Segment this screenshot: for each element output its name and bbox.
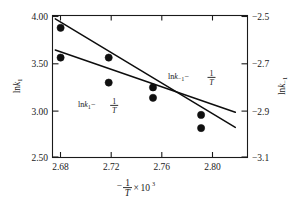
y-left-ticks	[53, 17, 59, 158]
y-left-axis-title: lnk1	[12, 79, 23, 94]
ann-lnk1-frac-num: 1	[112, 97, 116, 106]
y-right-tick-label-2: −2.9	[252, 107, 269, 117]
x-ticks	[61, 16, 213, 158]
chart-svg: 4.00 3.50 3.00 2.50 −2.5 −2.7 −2.9 −3.1 …	[0, 0, 297, 201]
fit-line-lnk1	[55, 19, 235, 128]
data-point	[149, 84, 156, 91]
y-left-tick-label-0: 4.00	[31, 12, 48, 22]
svg-text:lnk1: lnk1	[12, 79, 23, 94]
annotation-lnkm1: lnk−1− 1 T	[168, 69, 216, 88]
y-right-tick-label-3: −3.1	[252, 153, 269, 163]
ann-lnkm1-frac-num: 1	[210, 69, 214, 78]
x-tick-label-0: 2.68	[52, 162, 69, 172]
y-right-tick-label-1: −2.7	[252, 59, 269, 69]
svg-text:lnk−1: lnk−1	[277, 77, 288, 95]
x-tick-label-2: 2.76	[153, 162, 170, 172]
svg-text:lnk−1−: lnk−1−	[168, 72, 189, 82]
x-title-den: T	[125, 188, 131, 198]
y-left-tick-label-1: 3.50	[31, 59, 48, 69]
y-right-axis-title: lnk−1	[277, 77, 288, 95]
data-point	[198, 125, 205, 132]
x-title-num: 1	[125, 178, 130, 188]
y-right-title-sub: −1	[281, 77, 288, 84]
x-title-times: ×	[134, 183, 139, 193]
x-title-exp: 3	[152, 180, 155, 187]
ann-lnkm1-dash: −	[184, 72, 189, 81]
annotation-lnk1: lnk1− 1 T	[78, 97, 118, 116]
x-tick-label-3: 2.80	[204, 162, 221, 172]
y-left-title-sub: 1	[16, 79, 23, 82]
data-point	[57, 24, 64, 31]
x-title-minus: −	[117, 181, 122, 191]
ann-lnkm1-frac-den: T	[209, 78, 214, 87]
x-tick-label-1: 2.72	[103, 162, 120, 172]
data-point	[57, 54, 64, 61]
svg-text:lnk1−: lnk1−	[78, 100, 96, 110]
y-right-ticks	[242, 17, 248, 158]
data-point	[149, 94, 156, 101]
y-left-tick-label-3: 2.50	[31, 153, 48, 163]
data-point	[105, 54, 112, 61]
data-point	[105, 79, 112, 86]
ann-lnkm1-sub: −1	[178, 75, 185, 82]
y-left-tick-label-2: 3.00	[31, 107, 48, 117]
data-point	[198, 111, 205, 118]
chart-figure: 4.00 3.50 3.00 2.50 −2.5 −2.7 −2.9 −3.1 …	[0, 0, 297, 201]
ann-lnk1-dash: −	[91, 100, 96, 109]
ann-lnk1-frac-den: T	[112, 106, 117, 115]
x-title-base: 10	[141, 183, 151, 193]
x-axis-title: − 1 T × 10 3	[117, 178, 155, 199]
y-right-tick-label-0: −2.5	[252, 12, 269, 22]
